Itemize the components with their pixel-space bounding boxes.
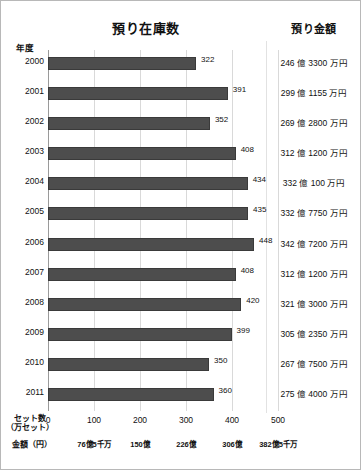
bar-value-label: 391: [233, 85, 246, 94]
money-axis-name: 金額（円）: [5, 438, 59, 449]
amount-value: 321 億 3000 万円: [269, 297, 359, 309]
bar-value-label: 399: [237, 326, 250, 335]
value-tick-label: 300: [166, 415, 206, 425]
money-tick-label: 382億5千万: [248, 438, 308, 449]
set-count-axis-name-line2: （万セット）: [5, 423, 55, 432]
bar: [48, 238, 254, 251]
amount-value: 246 億 3300 万円: [269, 56, 359, 68]
bar: [48, 147, 236, 160]
bar-row: 322: [48, 50, 278, 80]
bar-row: 435: [48, 200, 278, 230]
bar-value-label: 408: [241, 145, 254, 154]
chart-title: 預り在庫数: [61, 18, 231, 37]
amount-value: 342 億 7200 万円: [269, 237, 359, 249]
bar-row: 448: [48, 231, 278, 261]
amount-value: 312 億 1200 万円: [269, 267, 359, 279]
bar-value-label: 434: [253, 175, 266, 184]
year-label: 2002: [3, 116, 44, 126]
year-label: 2003: [3, 146, 44, 156]
value-tick-label: 100: [74, 415, 114, 425]
bar-row: 391: [48, 80, 278, 110]
value-tick-label: 500: [258, 415, 298, 425]
amount-value: 305 億 2350 万円: [269, 327, 359, 339]
bar-row: 434: [48, 170, 278, 200]
year-label: 2004: [3, 176, 44, 186]
set-count-axis-name-line1: セット数: [5, 414, 55, 423]
amount-value: 332 億 100 万円: [269, 176, 359, 188]
amount-column-title: 預り金額: [269, 20, 359, 36]
year-label: 2006: [3, 237, 44, 247]
year-label: 2001: [3, 86, 44, 96]
bar: [48, 177, 248, 190]
bar-row: 408: [48, 261, 278, 291]
value-tick-label: 200: [120, 415, 160, 425]
bar: [48, 207, 248, 220]
year-label: 2010: [3, 357, 44, 367]
amount-value: 299 億 1155 万円: [269, 86, 359, 98]
year-axis-label: 年度: [5, 41, 45, 53]
bar: [48, 117, 210, 130]
bar-row: 352: [48, 110, 278, 140]
bar-row: 408: [48, 140, 278, 170]
bar-row: 360: [48, 381, 278, 411]
amount-value: 332 億 7750 万円: [269, 206, 359, 218]
plot-area: 322391352408434435448408420399350360: [48, 50, 278, 411]
bar-value-label: 408: [241, 266, 254, 275]
year-label: 2008: [3, 297, 44, 307]
bar: [48, 87, 228, 100]
bar: [48, 57, 196, 70]
bar: [48, 298, 241, 311]
bar: [48, 268, 236, 281]
bar-row: 420: [48, 291, 278, 321]
amount-value: 269 億 2800 万円: [269, 116, 359, 128]
year-label: 2011: [3, 387, 44, 397]
bar: [48, 358, 209, 371]
set-count-axis-name: セット数 （万セット）: [5, 414, 55, 432]
year-label: 2005: [3, 206, 44, 216]
year-label: 2000: [3, 56, 44, 66]
amount-value: 275 億 4000 万円: [269, 387, 359, 399]
bar-row: 399: [48, 321, 278, 351]
amount-value: 267 億 7500 万円: [269, 357, 359, 369]
bar-value-label: 435: [253, 205, 266, 214]
bar-value-label: 352: [215, 115, 228, 124]
bar-value-label: 360: [219, 386, 232, 395]
value-tick-label: 400: [212, 415, 252, 425]
bar-value-label: 322: [201, 55, 214, 64]
bar: [48, 328, 232, 341]
year-label: 2009: [3, 327, 44, 337]
bar: [48, 388, 214, 401]
amount-value: 312 億 1200 万円: [269, 146, 359, 158]
bar-value-label: 350: [214, 356, 227, 365]
chart-page: 預り在庫数 預り金額 年度 32239135240843443544840842…: [0, 0, 361, 470]
bar-row: 350: [48, 351, 278, 381]
year-label: 2007: [3, 267, 44, 277]
bar-value-label: 420: [246, 296, 259, 305]
